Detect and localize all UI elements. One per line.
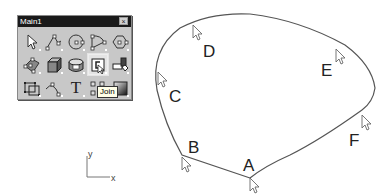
cursor-icon-e [336, 49, 345, 64]
point-label-b: B [188, 138, 199, 157]
point-label-c: C [169, 87, 181, 106]
point-label-a: A [243, 156, 255, 175]
cursor-icon-d [193, 25, 202, 40]
cursor-icon-c [158, 72, 167, 87]
cursor-icon-f [362, 115, 371, 130]
point-label-d: D [203, 42, 215, 61]
axis-indicator: y x [87, 149, 116, 183]
cursor-icon-a [250, 178, 259, 193]
curve-diagram: A B C D E F y x [0, 0, 383, 194]
point-label-e: E [321, 61, 332, 80]
point-label-f: F [349, 131, 359, 150]
cursor-icon-b [182, 157, 191, 172]
x-axis-label: x [111, 173, 116, 183]
y-axis-label: y [88, 149, 93, 159]
